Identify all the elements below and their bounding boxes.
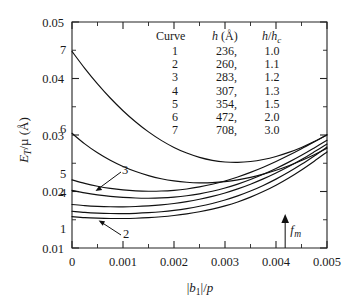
- legend-cell-curve: 4: [172, 84, 178, 98]
- legend-cell-ratio: 3.0: [265, 123, 280, 137]
- fm-arrow-head: [281, 214, 289, 223]
- legend-header-h: h(Å): [212, 29, 238, 43]
- legend-cell-h: 260,: [216, 57, 237, 71]
- x-axis-tick-labels: 00.0010.0020.0030.0040.005: [69, 255, 341, 269]
- legend-cell-curve: 2: [172, 57, 178, 71]
- legend-cell-ratio: 1.0: [265, 44, 280, 58]
- y-tick-label: 0.05: [42, 16, 64, 30]
- legend-cell-curve: 6: [172, 110, 178, 124]
- y-axis-title: ET/µ (Å): [16, 117, 33, 164]
- x-tick-label: 0.005: [313, 255, 341, 269]
- x-tick-label: 0.003: [211, 255, 239, 269]
- curve-7: [72, 51, 327, 162]
- legend-cell-ratio: 1.1: [265, 57, 280, 71]
- legend-cell-h: 236,: [216, 44, 237, 58]
- legend-rows: 1236,1.02260,1.13283,1.24307,1.35354,1.5…: [172, 44, 280, 137]
- y-tick-label: 0.04: [42, 72, 65, 86]
- legend-cell-ratio: 1.3: [265, 84, 280, 98]
- legend-header-h-symbol: h: [212, 29, 218, 43]
- legend-cell-ratio: 2.0: [265, 110, 280, 124]
- fm-label: fm: [290, 223, 301, 239]
- curve-label-5: 5: [60, 167, 66, 181]
- legend-header-ratio: h/hc: [262, 29, 281, 45]
- legend-cell-h: 472,: [216, 110, 237, 124]
- legend-cell-h: 708,: [216, 123, 237, 137]
- legend-cell-curve: 7: [172, 123, 178, 137]
- curve-4: [72, 140, 327, 198]
- x-tick-label: 0.002: [160, 255, 188, 269]
- data-curves: [72, 51, 327, 218]
- figure-container: 0.010.020.030.040.05 00.0010.0020.0030.0…: [0, 0, 352, 306]
- legend-header-curve: Curve: [156, 29, 185, 43]
- y-tick-label: 0.01: [42, 242, 64, 256]
- leader-arrow-2: [99, 220, 105, 225]
- curve-label-6: 6: [60, 122, 66, 136]
- chart-canvas: 0.010.020.030.040.05 00.0010.0020.0030.0…: [0, 0, 352, 306]
- legend-cell-h: 283,: [216, 70, 237, 84]
- legend-cell-h: 307,: [216, 84, 237, 98]
- x-tick-label: 0.004: [262, 255, 291, 269]
- legend-cell-curve: 1: [172, 44, 178, 58]
- leader-lines: [96, 172, 122, 235]
- curve-label-1: 1: [60, 222, 66, 236]
- curve-3: [72, 144, 327, 207]
- leader-line-2: [101, 222, 121, 235]
- curve-6: [72, 133, 327, 183]
- legend-cell-curve: 3: [172, 70, 178, 84]
- x-tick-label: 0: [69, 255, 75, 269]
- legend-cell-ratio: 1.5: [265, 97, 280, 111]
- legend-table: Curve h(Å) h/hc 1236,1.02260,1.13283,1.2…: [156, 29, 281, 137]
- curve-number-labels: 7 6 5 4 3 1 2: [60, 43, 129, 241]
- legend-cell-curve: 5: [172, 97, 178, 111]
- x-axis-title: |b1|/p: [187, 280, 214, 297]
- legend-cell-h: 354,: [216, 97, 237, 111]
- fm-annotation: fm: [281, 214, 301, 248]
- curve-label-2: 2: [123, 227, 129, 241]
- legend-cell-ratio: 1.2: [265, 70, 280, 84]
- x-tick-label: 0.001: [109, 255, 137, 269]
- curve-label-7: 7: [60, 43, 66, 57]
- curve-label-3: 3: [122, 163, 128, 177]
- curve-label-4: 4: [60, 186, 67, 200]
- leader-line-3: [98, 172, 121, 189]
